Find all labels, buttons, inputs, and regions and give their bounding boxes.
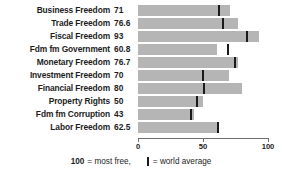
world-average-tick xyxy=(218,5,220,16)
x-axis-label-0: 0 xyxy=(136,142,140,151)
bar-track xyxy=(138,31,268,42)
bar-fill xyxy=(138,5,230,16)
table-row: Financial Freedom 80 xyxy=(0,82,282,95)
bar-track xyxy=(138,5,268,16)
legend-scale-text: = most free, xyxy=(87,157,130,166)
bar-track xyxy=(138,44,268,55)
freedom-index-bar-chart: Business Freedom 71 Trade Freedom 76.6 F… xyxy=(0,0,282,172)
table-row: Fdm fm Government 60.8 xyxy=(0,43,282,56)
table-row: Business Freedom 71 xyxy=(0,4,282,17)
bar-track xyxy=(138,122,268,133)
value-label: 50 xyxy=(114,95,123,108)
world-average-tick xyxy=(203,83,205,94)
category-label: Investment Freedom xyxy=(30,69,110,82)
category-label: Fdm fm Corruption xyxy=(36,108,110,121)
world-average-tick xyxy=(222,18,224,29)
value-label: 93 xyxy=(114,30,123,43)
bar-fill xyxy=(138,96,203,107)
bar-track xyxy=(138,96,268,107)
category-label: Fdm fm Government xyxy=(30,43,110,56)
world-average-tick xyxy=(196,96,198,107)
bar-fill xyxy=(138,109,194,120)
value-label: 70 xyxy=(114,69,123,82)
category-label: Monetary Freedom xyxy=(37,56,110,69)
table-row: Monetary Freedom 76.7 xyxy=(0,56,282,69)
bar-fill xyxy=(138,31,259,42)
table-row: Labor Freedom 62.5 xyxy=(0,121,282,134)
legend-average-text: = world average xyxy=(153,157,211,166)
world-average-tick xyxy=(234,57,236,68)
world-average-tick-icon xyxy=(147,157,149,166)
table-row: Property Rights 50 xyxy=(0,95,282,108)
bar-fill xyxy=(138,122,219,133)
category-label: Fiscal Freedom xyxy=(50,30,110,43)
category-label: Property Rights xyxy=(49,95,110,108)
bar-track xyxy=(138,83,268,94)
value-label: 60.8 xyxy=(114,43,130,56)
value-label: 43 xyxy=(114,108,123,121)
table-row: Investment Freedom 70 xyxy=(0,69,282,82)
x-axis-label-100: 100 xyxy=(262,142,275,151)
bar-fill xyxy=(138,57,238,68)
legend-scale-value: 100 xyxy=(71,157,85,166)
world-average-tick xyxy=(217,122,219,133)
table-row: Fiscal Freedom 93 xyxy=(0,30,282,43)
category-label: Labor Freedom xyxy=(50,121,110,134)
x-axis-label-50: 50 xyxy=(199,142,207,151)
category-label: Business Freedom xyxy=(37,4,110,17)
bar-track xyxy=(138,57,268,68)
bar-fill xyxy=(138,44,217,55)
legend-item-scale: 100 = most free, xyxy=(71,157,131,166)
bar-track xyxy=(138,70,268,81)
legend-item-average: = world average xyxy=(147,157,211,166)
chart-legend: 100 = most free, = world average xyxy=(0,154,282,168)
value-label: 76.7 xyxy=(114,56,130,69)
category-label: Trade Freedom xyxy=(51,17,110,30)
table-row: Trade Freedom 76.6 xyxy=(0,17,282,30)
world-average-tick xyxy=(202,70,204,81)
world-average-tick xyxy=(227,44,229,55)
bar-track xyxy=(138,109,268,120)
value-label: 71 xyxy=(114,4,123,17)
world-average-tick xyxy=(190,109,192,120)
bar-track xyxy=(138,18,268,29)
table-row: Fdm fm Corruption 43 xyxy=(0,108,282,121)
world-average-tick xyxy=(246,31,248,42)
value-label: 80 xyxy=(114,82,123,95)
category-label: Financial Freedom xyxy=(38,82,110,95)
value-label: 62.5 xyxy=(114,121,130,134)
value-label: 76.6 xyxy=(114,17,130,30)
bar-fill xyxy=(138,70,229,81)
bar-rows: Business Freedom 71 Trade Freedom 76.6 F… xyxy=(0,4,282,134)
bar-fill xyxy=(138,83,242,94)
